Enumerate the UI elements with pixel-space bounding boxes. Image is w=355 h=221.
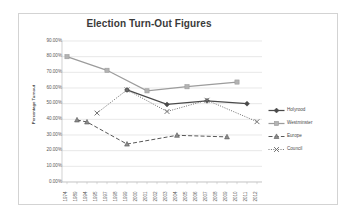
data-point-marker: [165, 102, 170, 107]
data-point-marker: [235, 80, 239, 84]
data-point-marker: [105, 68, 109, 72]
legend-item-council[interactable]: Council: [268, 145, 302, 154]
data-point-marker: [145, 89, 149, 93]
data-point-marker: [165, 109, 170, 114]
data-point-marker: [75, 117, 80, 122]
data-point-marker: [255, 119, 260, 124]
series-holyrood: [125, 87, 250, 107]
data-point-marker: [245, 101, 250, 106]
legend-marker-triangle-icon: [268, 132, 285, 141]
series-europe: [75, 117, 230, 146]
data-point-marker: [274, 108, 279, 113]
series-council: [95, 87, 260, 124]
legend-item-holyrood[interactable]: Holyrood: [268, 106, 305, 115]
series-line: [77, 120, 227, 144]
legend-label: Council: [285, 147, 302, 152]
legend-item-westminster[interactable]: Westminster: [268, 119, 312, 128]
legend-label: Europe: [285, 134, 302, 139]
data-point-marker: [95, 111, 100, 116]
legend-marker-diamond-icon: [268, 106, 285, 115]
series-westminster: [65, 55, 239, 93]
series-line: [97, 90, 257, 122]
legend-label: Holyrood: [285, 108, 305, 113]
data-point-marker: [185, 85, 189, 89]
data-point-marker: [65, 55, 69, 59]
series-line: [67, 57, 237, 91]
legend-item-europe[interactable]: Europe: [268, 132, 302, 141]
legend-marker-square-icon: [268, 119, 285, 128]
chart-container: Election Turn-Out Figures Percentage Tur…: [18, 13, 338, 205]
legend-label: Westminster: [285, 121, 312, 126]
data-point-marker: [274, 121, 278, 125]
legend-marker-cross-icon: [268, 145, 285, 154]
